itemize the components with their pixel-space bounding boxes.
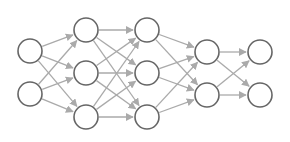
- edge-arrow: [42, 35, 73, 47]
- hidden-layer-1-node-3: [74, 105, 98, 129]
- edge-arrow: [159, 35, 194, 48]
- neural-network-diagram: [0, 0, 290, 142]
- edge-arrow: [159, 100, 194, 113]
- hidden-layer-1-node-1: [74, 18, 98, 42]
- edge-arrow: [42, 99, 73, 112]
- output-layer-node-2: [248, 83, 272, 107]
- edge-arrow: [159, 78, 194, 91]
- edge-arrow: [42, 78, 73, 90]
- hidden-layer-2-node-2: [135, 61, 159, 85]
- input-layer-node-2: [18, 82, 42, 106]
- hidden-layer-2-node-3: [135, 105, 159, 129]
- edge-arrow: [159, 57, 194, 69]
- input-layer-node-1: [18, 39, 42, 63]
- hidden-layer-1-node-2: [74, 61, 98, 85]
- hidden-layer-2-node-1: [135, 18, 159, 42]
- output-layer-node-1: [248, 40, 272, 64]
- hidden-layer-3-node-1: [195, 40, 219, 64]
- hidden-layer-3-node-2: [195, 83, 219, 107]
- edge-arrow: [39, 41, 77, 85]
